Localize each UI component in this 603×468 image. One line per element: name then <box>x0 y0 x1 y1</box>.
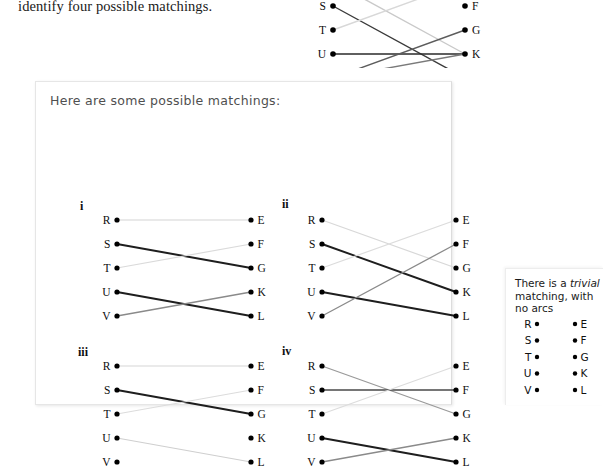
node-dot-G <box>573 355 577 359</box>
node-label-K: K <box>258 432 267 444</box>
node-label-U: U <box>524 367 532 379</box>
edge-R-K <box>333 0 465 54</box>
node-label-U: U <box>307 432 316 444</box>
top-figure-svg: RSTUVEFGKL <box>313 0 503 68</box>
edge-U-L <box>322 292 456 316</box>
edge-V-K <box>333 54 465 68</box>
node-dot-S <box>114 387 119 392</box>
node-label-T: T <box>103 262 110 274</box>
node-dot-U <box>114 289 119 294</box>
node-label-R: R <box>308 360 316 372</box>
possible-matchings-card: Here are some possible matchings: i ii i… <box>35 81 452 405</box>
node-label-K: K <box>463 432 472 444</box>
node-dot-F <box>462 3 468 9</box>
node-dot-G <box>453 265 458 270</box>
node-dot-S <box>114 241 119 246</box>
node-dot-U <box>114 435 119 440</box>
node-dot-G <box>453 411 458 416</box>
node-label-F: F <box>581 334 587 346</box>
node-label-K: K <box>581 367 589 379</box>
edge-V-G <box>333 30 465 68</box>
node-label-E: E <box>463 360 470 372</box>
node-label-E: E <box>258 360 265 372</box>
node-label-R: R <box>308 214 316 226</box>
node-label-S: S <box>104 238 110 250</box>
node-label-G: G <box>258 262 266 274</box>
node-dot-K <box>462 51 468 57</box>
node-dot-S <box>319 241 324 246</box>
node-label-G: G <box>258 408 266 420</box>
node-dot-R <box>114 217 119 222</box>
node-label-K: K <box>463 286 472 298</box>
node-label-L: L <box>258 310 265 322</box>
matching-svg-ii: RSTUVEFGKL <box>304 198 494 322</box>
matching-figure-iv: RSTUVEFGKL <box>304 344 494 468</box>
node-label-F: F <box>472 0 478 12</box>
node-dot-E <box>453 217 458 222</box>
node-dot-V <box>535 388 539 392</box>
node-label-S: S <box>320 0 326 12</box>
node-dot-R <box>114 363 119 368</box>
node-dot-G <box>248 411 253 416</box>
node-label-K: K <box>472 48 481 60</box>
node-dot-E <box>248 217 253 222</box>
edge-U-L <box>117 438 251 462</box>
node-dot-T <box>114 411 119 416</box>
node-dot-T <box>319 411 324 416</box>
node-label-G: G <box>472 24 480 36</box>
node-dot-F <box>248 241 253 246</box>
node-label-V: V <box>307 310 316 322</box>
matching-figure-ii: RSTUVEFGKL <box>304 198 494 322</box>
trivial-emphasis: trivial <box>570 277 600 289</box>
node-dot-V <box>114 459 119 464</box>
node-label-T: T <box>308 408 315 420</box>
node-dot-R <box>319 217 324 222</box>
node-label-U: U <box>307 286 316 298</box>
node-dot-G <box>248 265 253 270</box>
node-label-T: T <box>319 24 326 36</box>
node-label-L: L <box>463 310 470 322</box>
node-label-E: E <box>581 318 588 330</box>
matching-figure-iii: RSTUVEFGKL <box>99 344 289 468</box>
node-dot-K <box>453 435 458 440</box>
node-label-S: S <box>525 334 532 346</box>
matching-svg-i: RSTUVEFGKL <box>99 198 289 322</box>
node-dot-K <box>248 435 253 440</box>
node-dot-G <box>462 27 468 33</box>
node-label-S: S <box>104 384 110 396</box>
trivial-matching-figure: RSTUVEFGKL <box>520 316 598 402</box>
node-label-K: K <box>258 286 267 298</box>
node-label-S: S <box>309 384 315 396</box>
node-label-L: L <box>258 456 265 468</box>
node-dot-S <box>319 387 324 392</box>
node-dot-V <box>319 313 324 318</box>
node-label-G: G <box>581 351 589 363</box>
node-label-V: V <box>307 456 316 468</box>
node-dot-T <box>535 355 539 359</box>
edge-S-K <box>322 244 456 292</box>
node-label-L: L <box>581 384 587 396</box>
node-label-F: F <box>258 384 264 396</box>
node-label-F: F <box>463 384 469 396</box>
matching-svg-iv: RSTUVEFGKL <box>304 344 494 468</box>
node-label-G: G <box>463 408 471 420</box>
node-dot-T <box>114 265 119 270</box>
node-dot-K <box>453 289 458 294</box>
node-dot-L <box>573 388 577 392</box>
node-dot-F <box>453 241 458 246</box>
node-label-U: U <box>102 432 111 444</box>
node-label-U: U <box>102 286 111 298</box>
node-dot-U <box>535 371 539 375</box>
node-label-V: V <box>102 456 111 468</box>
node-dot-L <box>453 459 458 464</box>
node-dot-L <box>453 313 458 318</box>
node-dot-T <box>330 27 336 33</box>
node-dot-F <box>573 338 577 342</box>
node-dot-T <box>319 265 324 270</box>
node-label-V: V <box>524 384 532 396</box>
node-label-R: R <box>103 214 111 226</box>
figure-numeral-i: i <box>80 199 83 214</box>
node-dot-E <box>248 363 253 368</box>
matching-figure-i: RSTUVEFGKL <box>99 198 289 322</box>
